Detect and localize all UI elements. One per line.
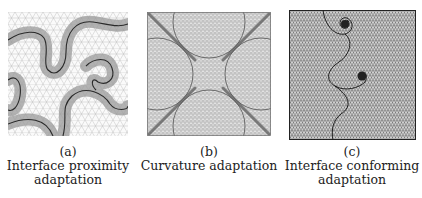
caption-a-line2: adaptation xyxy=(0,173,136,187)
caption-c-line1: Interface conforming xyxy=(282,159,422,173)
caption-b-line1: Curvature adaptation xyxy=(140,159,278,173)
caption-c: (c) Interface conforming adaptation xyxy=(282,145,422,187)
caption-c-line2: adaptation xyxy=(282,173,422,187)
panel-a-mesh-image xyxy=(8,12,128,136)
panel-c-mesh-image xyxy=(289,10,416,140)
caption-a-label: (a) xyxy=(0,145,136,159)
caption-c-label: (c) xyxy=(282,145,422,159)
caption-b-label: (b) xyxy=(140,145,278,159)
caption-a-line1: Interface proximity xyxy=(0,159,136,173)
panel-b-mesh-image xyxy=(147,12,271,136)
caption-b: (b) Curvature adaptation xyxy=(140,145,278,173)
caption-a: (a) Interface proximity adaptation xyxy=(0,145,136,187)
